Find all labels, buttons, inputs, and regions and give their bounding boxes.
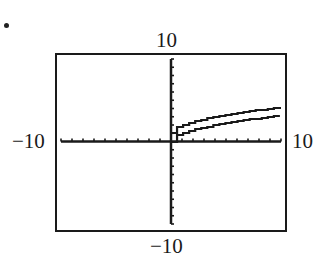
- lower-curve: [171, 116, 280, 142]
- calculator-graph: [0, 0, 318, 268]
- upper-curve: [171, 107, 280, 133]
- curves: [171, 107, 280, 142]
